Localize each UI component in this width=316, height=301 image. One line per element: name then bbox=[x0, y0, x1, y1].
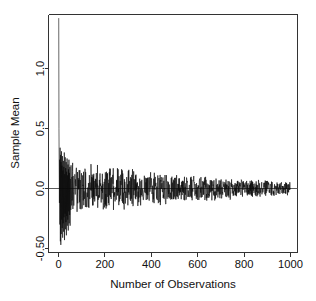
chart-background bbox=[0, 0, 316, 301]
y-axis-title: Sample Mean bbox=[8, 97, 21, 169]
y-tick-label--0.50: -0.50 bbox=[34, 236, 46, 262]
x-axis-title: Number of Observations bbox=[110, 277, 236, 290]
x-tick-label-600: 600 bbox=[188, 258, 207, 270]
x-tick-label-1000: 1000 bbox=[278, 258, 303, 270]
y-tick-label-0.0: 0.0 bbox=[34, 181, 46, 197]
x-tick-label-200: 200 bbox=[96, 258, 115, 270]
x-tick-label-0: 0 bbox=[55, 258, 61, 270]
sample-mean-convergence-chart: 1.0 0.5 0.0 -0.50 0 200 400 600 800 1000… bbox=[0, 0, 316, 301]
x-tick-label-400: 400 bbox=[142, 258, 161, 270]
y-tick-label-0.5: 0.5 bbox=[34, 121, 46, 137]
figure-container: 1.0 0.5 0.0 -0.50 0 200 400 600 800 1000… bbox=[0, 0, 316, 301]
x-tick-label-800: 800 bbox=[235, 258, 254, 270]
y-tick-label-1.0: 1.0 bbox=[34, 61, 46, 77]
